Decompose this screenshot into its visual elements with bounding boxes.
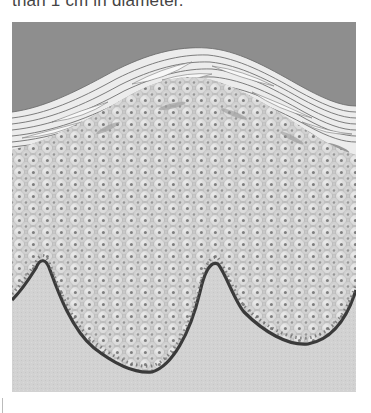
page-edge-mark [2,398,3,413]
epidermis-svg [12,22,356,392]
caption-text: than 1 cm in diameter. [12,0,184,11]
epidermis-illustration [12,22,356,392]
